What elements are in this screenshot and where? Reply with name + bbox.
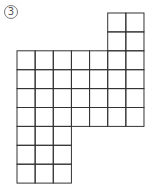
main-block <box>17 51 144 127</box>
grid-cell <box>35 51 53 70</box>
grid-cell <box>17 89 35 108</box>
grid-cell <box>108 32 126 51</box>
grid-cell <box>126 32 144 51</box>
grid-cell <box>35 108 53 127</box>
grid-cell <box>17 164 35 183</box>
grid-cell <box>71 70 89 89</box>
grid-cell <box>108 89 126 108</box>
grid-cell <box>53 126 71 145</box>
grid-cell <box>108 13 126 32</box>
grid-cell <box>53 51 71 70</box>
grid-cell <box>126 70 144 89</box>
grid-cell <box>17 108 35 127</box>
grid-cell <box>108 70 126 89</box>
grid-cell <box>53 164 71 183</box>
bottom-left-block <box>17 126 71 183</box>
grid-cell <box>71 51 89 70</box>
grid-cell <box>126 89 144 108</box>
grid-cell <box>90 70 108 89</box>
grid-cell <box>35 126 53 145</box>
grid-cell <box>53 70 71 89</box>
grid-cell <box>53 145 71 164</box>
grid-cell <box>90 89 108 108</box>
grid-cell <box>17 70 35 89</box>
grid-cell <box>17 51 35 70</box>
grid-cell <box>90 108 108 127</box>
grid-cell <box>126 51 144 70</box>
grid-cell <box>71 108 89 127</box>
grid-cell <box>108 51 126 70</box>
grid-cell <box>53 108 71 127</box>
top-right-block <box>108 13 144 51</box>
grid-cell <box>17 145 35 164</box>
grid-cell <box>71 89 89 108</box>
grid-cell <box>53 89 71 108</box>
grid-cell <box>17 126 35 145</box>
grid-cell <box>35 145 53 164</box>
grid-cell <box>108 108 126 127</box>
grid-cell <box>35 89 53 108</box>
grid-cell <box>35 70 53 89</box>
grid-cell <box>35 164 53 183</box>
grid-cell <box>126 108 144 127</box>
grid-cell <box>126 13 144 32</box>
grid-figure <box>0 0 153 196</box>
grid-cell <box>90 51 108 70</box>
